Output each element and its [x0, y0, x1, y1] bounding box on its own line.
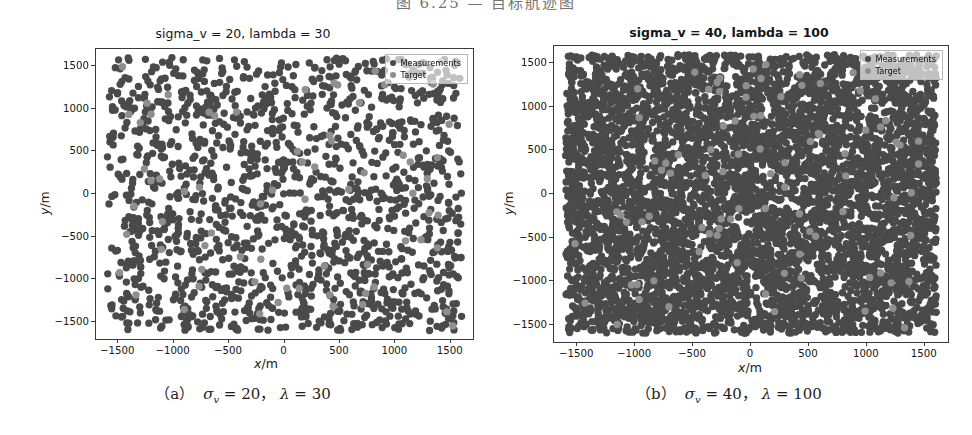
- xtick-label: −1500: [559, 348, 593, 359]
- ytick-label: 500: [47, 145, 89, 156]
- xtick-label: 0: [747, 348, 753, 359]
- xtick-label: 500: [798, 348, 817, 359]
- ytick-mark: [91, 236, 95, 237]
- xtick-label: 0: [280, 345, 286, 356]
- ytick-label: −1500: [47, 315, 89, 326]
- xtick-mark: [576, 342, 577, 346]
- yaxis-label-b: y/m: [498, 191, 517, 215]
- ytick-label: 1000: [505, 100, 547, 111]
- scatter-canvas-a: [96, 49, 473, 339]
- xtick-label: −500: [678, 348, 706, 359]
- legend-item-target: Target: [865, 66, 936, 76]
- xtick-mark: [924, 342, 925, 346]
- ytick-label: −500: [47, 230, 89, 241]
- subcaption-a: （a）σv = 20， λ = 30: [0, 382, 486, 405]
- xtick-mark: [117, 339, 118, 343]
- ytick-label: −1000: [505, 275, 547, 286]
- figure-panel-b: sigma_v = 40, lambda = 100 Measurements …: [486, 0, 972, 435]
- xtick-mark: [692, 342, 693, 346]
- xtick-label: 500: [329, 345, 348, 356]
- legend-item-measurements: Measurements: [390, 58, 461, 68]
- legend-item-target: Target: [390, 70, 461, 80]
- xtick-label: 1500: [911, 348, 937, 359]
- xtick-mark: [866, 342, 867, 346]
- legend-label-target: Target: [876, 66, 901, 76]
- xtick-label: −1500: [100, 345, 134, 356]
- ytick-mark: [91, 108, 95, 109]
- legend-item-measurements: Measurements: [865, 54, 936, 64]
- figure-panel-a: sigma_v = 20, lambda = 30 Measurements T…: [0, 0, 486, 435]
- plot-area-a: Measurements Target: [95, 48, 474, 340]
- chart-title-a: sigma_v = 20, lambda = 30: [0, 26, 486, 41]
- ytick-label: 1500: [47, 60, 89, 71]
- ytick-mark: [549, 193, 553, 194]
- ytick-label: −1000: [47, 273, 89, 284]
- xtick-label: 1000: [381, 345, 407, 356]
- ytick-label: −1500: [505, 318, 547, 329]
- legend-marker-target-icon: [390, 72, 396, 78]
- ytick-label: 1000: [47, 102, 89, 113]
- legend-marker-measurements-icon: [390, 60, 396, 66]
- xtick-mark: [634, 342, 635, 346]
- xtick-label: 1000: [853, 348, 879, 359]
- xtick-mark: [808, 342, 809, 346]
- plot-area-b: Measurements Target: [553, 45, 949, 343]
- ytick-mark: [91, 321, 95, 322]
- legend-label-measurements: Measurements: [876, 54, 936, 64]
- xtick-label: −1000: [155, 345, 189, 356]
- ytick-label: 1500: [505, 57, 547, 68]
- legend-a: Measurements Target: [385, 54, 468, 84]
- xaxis-label-a: x/m: [254, 356, 278, 371]
- xtick-mark: [750, 342, 751, 346]
- legend-label-target: Target: [401, 70, 426, 80]
- ytick-label: −500: [505, 231, 547, 242]
- ytick-mark: [91, 150, 95, 151]
- xtick-mark: [339, 339, 340, 343]
- ytick-mark: [91, 65, 95, 66]
- xtick-mark: [228, 339, 229, 343]
- chart-title-b: sigma_v = 40, lambda = 100: [486, 25, 972, 40]
- legend-marker-measurements-icon: [865, 56, 871, 62]
- xtick-label: −500: [214, 345, 242, 356]
- yaxis-label-a: y/m: [34, 191, 53, 215]
- subcaption-b: （b）σv = 40， λ = 100: [486, 382, 972, 405]
- xaxis-label-b: x/m: [738, 360, 762, 375]
- xtick-mark: [284, 339, 285, 343]
- ytick-label: 500: [505, 144, 547, 155]
- legend-marker-target-icon: [865, 68, 871, 74]
- ytick-mark: [549, 280, 553, 281]
- xtick-mark: [450, 339, 451, 343]
- ytick-mark: [549, 324, 553, 325]
- xtick-label: 1500: [437, 345, 463, 356]
- ytick-mark: [91, 278, 95, 279]
- ytick-mark: [549, 237, 553, 238]
- ytick-mark: [549, 149, 553, 150]
- ytick-label: 0: [47, 188, 89, 199]
- ytick-mark: [91, 193, 95, 194]
- xtick-label: −1000: [617, 348, 651, 359]
- ytick-mark: [549, 106, 553, 107]
- ytick-mark: [549, 62, 553, 63]
- xtick-mark: [394, 339, 395, 343]
- legend-label-measurements: Measurements: [401, 58, 461, 68]
- legend-b: Measurements Target: [860, 50, 943, 80]
- scatter-canvas-b: [554, 46, 948, 342]
- xtick-mark: [173, 339, 174, 343]
